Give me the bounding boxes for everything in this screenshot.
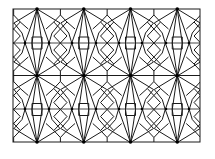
pattern-tiles (0, 9, 215, 143)
geometric-pattern (0, 0, 215, 159)
